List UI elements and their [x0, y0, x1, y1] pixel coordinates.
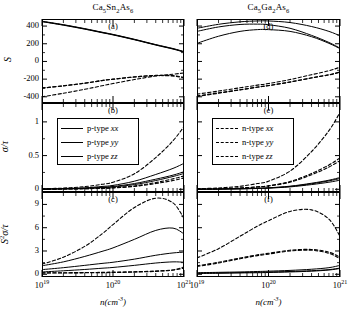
legend-line-swatch [61, 124, 83, 132]
ytick-label-row0-1: 200 [8, 38, 39, 48]
curve-p-type-zz [197, 29, 340, 48]
curve-n-type-yy [42, 75, 184, 88]
curve-p-type-xx [42, 172, 184, 189]
column-title-2: Ca5Ga2As6 [241, 2, 297, 14]
xtick-label-col1-2: 1021 [329, 279, 351, 290]
xaxis-label-col0: n(cm-3) [89, 296, 137, 307]
curve-n-type-zz [197, 67, 340, 94]
legend-item-xx: n-type xx [213, 121, 293, 135]
legend-b: p-type xxp-type yyp-type zz [57, 118, 139, 165]
figure-canvas: Ca5Sn2As6Ca5Ga2As6(a)(b)(c)(d)(e)(f)4002… [0, 0, 359, 315]
legend-item-zz: p-type zz [58, 149, 138, 163]
ytick-label-row0-3: -200 [8, 73, 39, 83]
legend-line-swatch [216, 152, 238, 160]
plot-surface [0, 0, 359, 315]
yaxis-label-row0: S [2, 40, 13, 80]
panel-tag-a: (a) [103, 21, 123, 31]
curve-n-type-zz [42, 73, 184, 97]
panel-tag-b: (b) [103, 105, 123, 115]
xtick-label-col1-1: 1020 [258, 279, 280, 290]
legend-label: p-type xx [83, 123, 118, 133]
legend-line-swatch [61, 152, 83, 160]
ytick-label-row0-0: 400 [8, 20, 39, 30]
legend-item-yy: n-type yy [213, 135, 293, 149]
legend-label: p-type yy [83, 137, 118, 147]
legend-line-swatch [216, 124, 238, 132]
panel-tag-f: (f) [259, 194, 279, 204]
legend-item-xx: p-type xx [58, 121, 138, 135]
ytick-label-row2-1: 6 [8, 222, 39, 232]
yaxis-label-row2: S2σ/τ [0, 214, 10, 254]
curve-p-type-zz [42, 228, 184, 266]
xtick-label-col1-0: 1019 [186, 279, 208, 290]
ytick-label-row2-3: 0 [8, 268, 39, 278]
xtick-label-col0-0: 1019 [31, 279, 53, 290]
curve-p-type-zz [42, 163, 184, 189]
legend-item-zz: n-type zz [213, 149, 293, 163]
ytick-label-row1-1: 0.5 [8, 150, 39, 160]
series-group [42, 198, 184, 273]
legend-label: n-type yy [238, 137, 273, 147]
panel-tag-d: (d) [259, 21, 279, 31]
legend-line-swatch [216, 138, 238, 146]
ytick-label-row1-0: 1 [8, 116, 39, 126]
series-group [42, 21, 184, 97]
curve-n-type-yy [42, 178, 184, 189]
ytick-label-row1-2: 0 [8, 183, 39, 193]
legend-line-swatch [61, 138, 83, 146]
legend-label: p-type zz [83, 151, 117, 161]
panel-a [42, 19, 184, 103]
curve-n-type-zz [197, 209, 340, 258]
legend-e: n-type xxn-type yyn-type zz [212, 118, 294, 165]
curve-n-type-yy [197, 250, 340, 266]
legend-label: n-type zz [238, 151, 272, 161]
curve-n-type-yy [197, 72, 340, 96]
ytick-label-row2-0: 9 [8, 198, 39, 208]
panel-tag-c: (c) [103, 194, 123, 204]
panel-f [197, 192, 340, 277]
xtick-label-col0-1: 1020 [102, 279, 124, 290]
ytick-label-row2-2: 3 [8, 245, 39, 255]
ytick-label-row0-2: 0 [8, 55, 39, 65]
ytick-label-row0-4: -400 [8, 91, 39, 101]
panel-c [42, 192, 184, 277]
column-title-1: Ca5Sn2As6 [85, 2, 141, 14]
yaxis-label-row1: σ/τ [0, 126, 10, 166]
series-group [197, 21, 340, 97]
xaxis-label-col1: n(cm-3) [245, 296, 293, 307]
legend-label: n-type xx [238, 123, 273, 133]
panel-tag-e: (e) [259, 105, 279, 115]
legend-item-yy: p-type yy [58, 135, 138, 149]
panel-d [197, 19, 340, 103]
series-group [197, 209, 340, 273]
